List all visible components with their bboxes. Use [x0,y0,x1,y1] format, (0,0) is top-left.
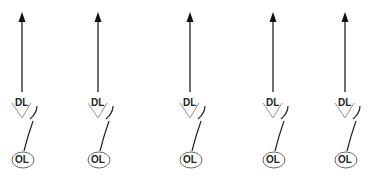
dl-label: DL [266,98,279,108]
unit-2: DL OL [76,0,136,179]
dl-label: DL [91,98,104,108]
ol-label: OL [266,155,280,165]
arrow-up-icon [251,0,311,179]
dl-label: DL [338,98,351,108]
unit-1: DL OL [0,0,60,179]
diagram: DL OL DL OL DL OL [0,0,370,179]
unit-3: DL OL [168,0,228,179]
dl-label: DL [183,98,196,108]
ol-label: OL [183,155,197,165]
arrow-up-icon [76,0,136,179]
unit-4: DL OL [251,0,311,179]
arrow-up-icon [0,0,60,179]
dl-label: DL [15,98,28,108]
ol-label: OL [91,155,105,165]
ol-label: OL [338,155,352,165]
ol-label: OL [15,155,29,165]
arrow-up-icon [168,0,228,179]
unit-5: DL OL [323,0,370,179]
arrow-up-icon [323,0,370,179]
